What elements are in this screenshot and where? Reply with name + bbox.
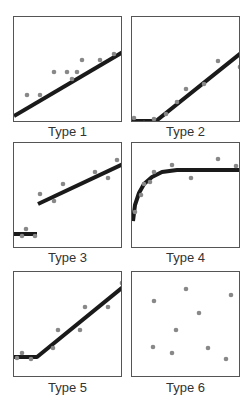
data-point xyxy=(78,328,83,333)
data-point xyxy=(15,356,20,361)
trend-line xyxy=(133,170,240,221)
data-point xyxy=(238,65,240,70)
data-point xyxy=(224,357,229,362)
data-point xyxy=(216,157,221,162)
data-point xyxy=(152,170,157,175)
data-point xyxy=(38,192,43,197)
data-point xyxy=(139,193,144,198)
plot-type-4 xyxy=(132,143,238,246)
data-point xyxy=(132,116,137,121)
data-point xyxy=(202,82,207,87)
data-point xyxy=(24,227,29,232)
trend-line xyxy=(14,287,122,357)
data-point xyxy=(184,287,189,292)
data-point xyxy=(98,58,103,63)
data-point xyxy=(216,59,221,64)
data-point xyxy=(56,328,61,333)
data-point xyxy=(20,234,25,239)
data-point xyxy=(70,77,75,82)
plot-type-6 xyxy=(132,272,238,375)
data-point xyxy=(164,112,169,117)
data-point xyxy=(65,70,70,75)
plot-type-1 xyxy=(14,17,120,120)
label-type-6: Type 6 xyxy=(131,381,240,395)
panel-type-5 xyxy=(13,271,122,377)
data-point xyxy=(151,345,156,350)
panel-type-2 xyxy=(131,16,240,122)
data-point xyxy=(206,346,211,351)
data-point xyxy=(133,210,138,215)
label-type-2: Type 2 xyxy=(131,125,240,139)
data-point xyxy=(142,182,147,187)
panel-type-1 xyxy=(13,16,122,122)
data-point xyxy=(29,357,34,362)
data-point xyxy=(20,351,25,356)
panel-type-4 xyxy=(131,142,240,248)
data-point xyxy=(52,199,57,204)
plot-type-5 xyxy=(14,272,120,375)
trend-line xyxy=(14,52,122,116)
trend-line xyxy=(38,164,122,204)
data-point xyxy=(83,305,88,310)
data-point xyxy=(120,281,122,286)
data-point xyxy=(80,58,85,63)
data-point xyxy=(189,176,194,181)
data-point xyxy=(229,293,234,298)
panel-type-6 xyxy=(131,271,240,377)
data-point xyxy=(234,164,239,169)
data-point xyxy=(33,234,38,239)
data-point xyxy=(170,163,175,168)
data-point xyxy=(61,182,66,187)
plot-type-3 xyxy=(14,143,120,246)
data-point xyxy=(197,311,202,316)
data-point xyxy=(184,87,189,92)
data-point xyxy=(106,305,111,310)
plot-type-2 xyxy=(132,17,238,120)
data-point xyxy=(106,176,111,181)
data-point xyxy=(148,180,153,185)
data-point xyxy=(152,299,157,304)
data-point xyxy=(52,70,57,75)
label-type-5: Type 5 xyxy=(13,381,122,395)
label-type-1: Type 1 xyxy=(13,125,122,139)
data-point xyxy=(170,351,175,356)
data-point xyxy=(38,93,43,98)
label-type-3: Type 3 xyxy=(13,251,122,265)
data-point xyxy=(115,158,120,163)
data-point xyxy=(112,52,117,57)
data-point xyxy=(152,117,157,122)
data-point xyxy=(175,100,180,105)
data-point xyxy=(174,328,179,333)
data-point xyxy=(75,70,80,75)
data-point xyxy=(25,93,30,98)
label-type-4: Type 4 xyxy=(131,251,240,265)
panel-type-3 xyxy=(13,142,122,248)
data-point xyxy=(51,346,56,351)
data-point xyxy=(93,170,98,175)
